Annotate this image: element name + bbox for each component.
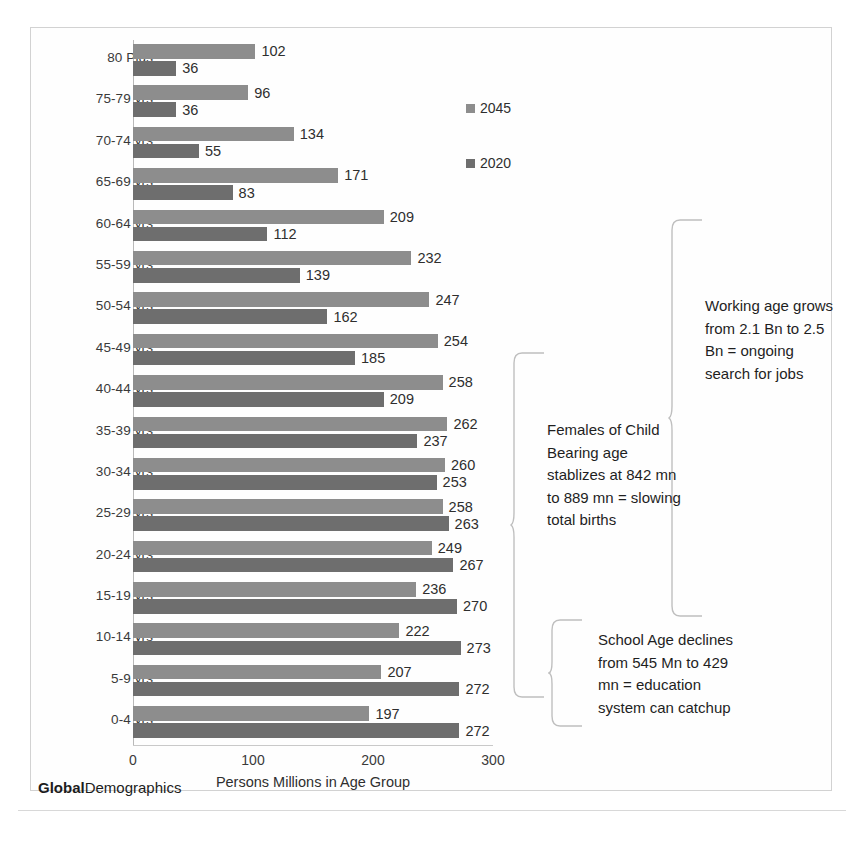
x-axis-title: Persons Millions in Age Group [133,774,493,790]
bar-value-label: 207 [387,664,411,680]
bar-value-label: 171 [344,167,368,183]
bar-2045[interactable]: 207 [133,665,381,680]
bar-value-label: 232 [417,250,441,266]
bar-value-label: 272 [465,681,489,697]
bar-2045[interactable]: 258 [133,499,443,514]
category-label: 55-59 yrs [0,257,153,272]
x-tick-label: 300 [481,752,504,768]
bar-group: 207272 [133,665,459,697]
bar-group: 254185 [133,334,438,366]
bar-2020[interactable]: 267 [133,558,453,573]
bar-2020[interactable]: 83 [133,185,233,200]
bar-row: 35-39 yrs262237 [0,414,865,455]
x-tick-label: 100 [241,752,264,768]
x-tick-label: 200 [361,752,384,768]
bar-2045[interactable]: 262 [133,417,447,432]
bar-row: 30-34 yrs260253 [0,455,865,496]
bar-row: 60-64 yrs209112 [0,207,865,248]
bar-value-label: 222 [405,622,429,638]
bar-value-label: 247 [435,291,459,307]
bar-2020[interactable]: 270 [133,599,457,614]
bar-2045[interactable]: 258 [133,375,443,390]
bar-2020[interactable]: 185 [133,351,355,366]
category-label: 40-44 yrs [0,381,153,396]
bar-value-label: 112 [273,226,296,242]
bar-row: 65-69 yrs17183 [0,165,865,206]
bar-2045[interactable]: 260 [133,458,445,473]
bar-2020[interactable]: 272 [133,723,459,738]
bar-group: 197272 [133,706,459,738]
bar-value-label: 267 [459,557,483,573]
bar-2045[interactable]: 209 [133,210,384,225]
bar-2020[interactable]: 112 [133,227,267,242]
legend-swatch-icon [466,104,475,113]
bar-2020[interactable]: 253 [133,475,437,490]
category-label: 65-69 yrs [0,174,153,189]
legend-item-2045[interactable]: 2045 [466,100,511,116]
bar-value-label: 258 [449,374,473,390]
bar-2045[interactable]: 249 [133,541,432,556]
bar-chart-plot-area: 80 Plus1023675-79 yrs963670-74 yrs134556… [0,0,865,849]
bar-value-label: 263 [455,515,479,531]
legend-item-2020[interactable]: 2020 [466,155,511,171]
bar-2020[interactable]: 209 [133,392,384,407]
bar-value-label: 272 [465,722,489,738]
bracket-child-bearing [510,351,550,699]
bar-2020[interactable]: 36 [133,61,176,76]
category-label: 75-79 yrs [0,91,153,106]
bar-group: 9636 [133,85,248,117]
bar-2045[interactable]: 134 [133,127,294,142]
category-label: 0-4 yrs [0,712,153,727]
bar-2020[interactable]: 162 [133,309,327,324]
bar-value-label: 260 [451,457,475,473]
bar-2020[interactable]: 36 [133,102,176,117]
bar-value-label: 209 [390,208,414,224]
category-label: 70-74 yrs [0,133,153,148]
category-label: 80 Plus [0,50,153,65]
bar-2045[interactable]: 96 [133,85,248,100]
bar-group: 222273 [133,623,461,655]
bar-value-label: 36 [182,60,198,76]
bar-group: 258263 [133,499,449,531]
category-label: 5-9 yrs [0,671,153,686]
bar-group: 232139 [133,251,411,283]
bar-value-label: 162 [333,308,357,324]
annotation-working-age: Working age grows from 2.1 Bn to 2.5 Bn … [705,295,835,385]
bar-2045[interactable]: 171 [133,168,338,183]
bar-value-label: 249 [438,540,462,556]
bar-2020[interactable]: 272 [133,682,459,697]
bar-2045[interactable]: 254 [133,334,438,349]
legend-swatch-icon [466,159,475,168]
bar-value-label: 262 [453,415,477,431]
bar-row: 80 Plus10236 [0,41,865,82]
bar-group: 249267 [133,541,453,573]
bar-2045[interactable]: 247 [133,292,429,307]
bar-2020[interactable]: 139 [133,268,300,283]
x-tick-label: 0 [129,752,137,768]
bar-group: 260253 [133,458,445,490]
bar-2020[interactable]: 263 [133,516,449,531]
bar-row: 25-29 yrs258263 [0,496,865,537]
category-label: 25-29 yrs [0,505,153,520]
bar-value-label: 96 [254,84,270,100]
category-label: 35-39 yrs [0,423,153,438]
bar-2020[interactable]: 273 [133,641,461,656]
x-axis-ticks: 0100200300 [0,752,865,774]
bar-value-label: 139 [306,267,330,283]
bar-2045[interactable]: 236 [133,582,416,597]
bar-2045[interactable]: 232 [133,251,411,266]
bar-group: 247162 [133,292,429,324]
bar-value-label: 237 [423,433,447,449]
bar-row: 20-24 yrs249267 [0,538,865,579]
bar-group: 17183 [133,168,338,200]
bar-2020[interactable]: 55 [133,144,199,159]
bar-2045[interactable]: 222 [133,623,399,638]
bar-value-label: 185 [361,350,385,366]
bar-2045[interactable]: 197 [133,706,369,721]
bar-2020[interactable]: 237 [133,434,417,449]
annotation-child-bearing: Females of Child Bearing age stablizes a… [547,419,687,532]
bar-2045[interactable]: 102 [133,44,255,59]
chart-page: 80 Plus1023675-79 yrs963670-74 yrs134556… [0,0,865,849]
category-label: 50-54 yrs [0,298,153,313]
category-label: 30-34 yrs [0,464,153,479]
